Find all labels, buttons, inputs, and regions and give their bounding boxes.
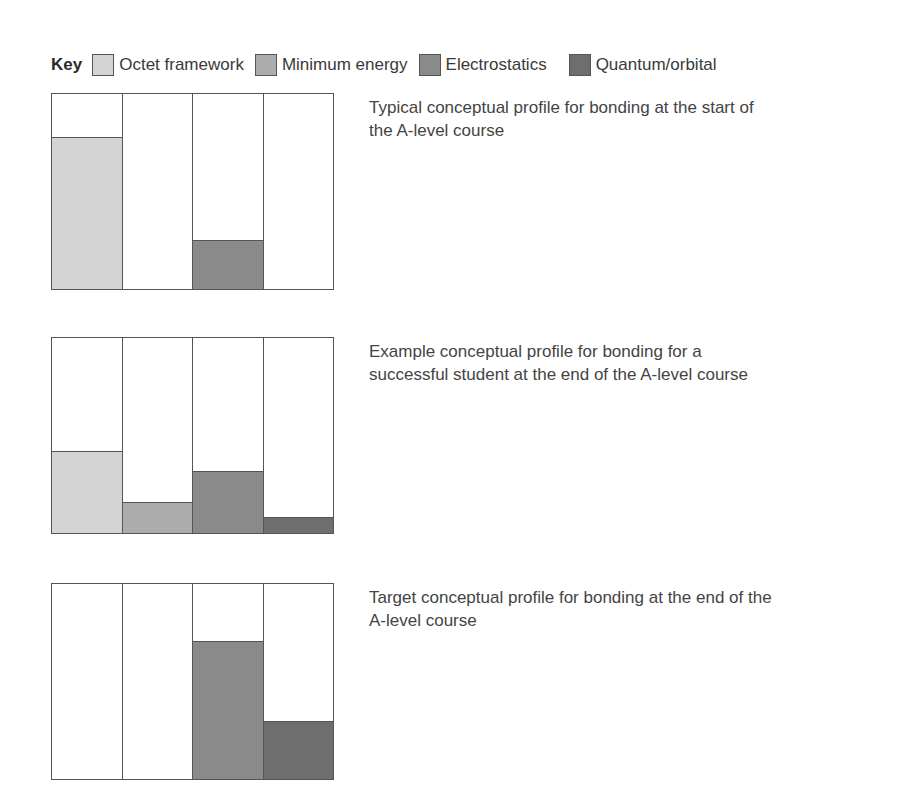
column-electrostatics — [193, 584, 264, 779]
bar-electrostatics — [193, 240, 263, 289]
profile-chart-target — [51, 583, 334, 780]
legend-title: Key — [51, 55, 82, 75]
legend-label: Minimum energy — [282, 55, 408, 75]
bar-electrostatics — [193, 641, 263, 779]
legend-label: Octet framework — [119, 55, 244, 75]
bar-octet — [52, 451, 122, 533]
profile-caption-successful-student: Example conceptual profile for bonding f… — [369, 340, 769, 386]
legend-swatch-octet — [92, 54, 114, 76]
column-quantum-orbital — [264, 584, 334, 779]
profile-caption-start: Typical conceptual profile for bonding a… — [369, 96, 779, 142]
bar-quantum-orbital — [264, 517, 334, 533]
bar-minimum-energy — [123, 502, 193, 533]
legend-swatch-quantum-orbital — [569, 54, 591, 76]
column-octet — [52, 94, 123, 289]
column-electrostatics — [193, 94, 264, 289]
column-octet — [52, 584, 123, 779]
legend-label: Electrostatics — [446, 55, 547, 75]
bar-quantum-orbital — [264, 721, 334, 780]
bar-octet — [52, 137, 122, 289]
column-minimum-energy — [123, 584, 194, 779]
profile-chart-successful-student — [51, 337, 334, 534]
column-quantum-orbital — [264, 94, 334, 289]
legend-swatch-minimum-energy — [255, 54, 277, 76]
bar-electrostatics — [193, 471, 263, 533]
column-minimum-energy — [123, 94, 194, 289]
legend: Key Octet framework Minimum energy Elect… — [51, 53, 728, 77]
legend-label: Quantum/orbital — [596, 55, 717, 75]
column-octet — [52, 338, 123, 533]
legend-item-minimum-energy: Minimum energy — [255, 54, 408, 76]
column-electrostatics — [193, 338, 264, 533]
profile-chart-start — [51, 93, 334, 290]
legend-item-electrostatics: Electrostatics — [419, 54, 547, 76]
column-quantum-orbital — [264, 338, 334, 533]
legend-item-octet: Octet framework — [92, 54, 244, 76]
legend-item-quantum-orbital: Quantum/orbital — [569, 54, 717, 76]
profile-caption-target: Target conceptual profile for bonding at… — [369, 586, 779, 632]
column-minimum-energy — [123, 338, 194, 533]
legend-swatch-electrostatics — [419, 54, 441, 76]
